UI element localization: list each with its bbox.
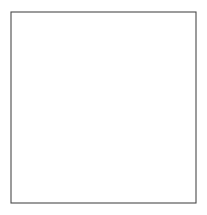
- figure-root: Periodic tessellation of pentagonal star…: [0, 0, 207, 215]
- border-frame: [11, 12, 196, 203]
- geometric-tiling-figure: [0, 0, 207, 215]
